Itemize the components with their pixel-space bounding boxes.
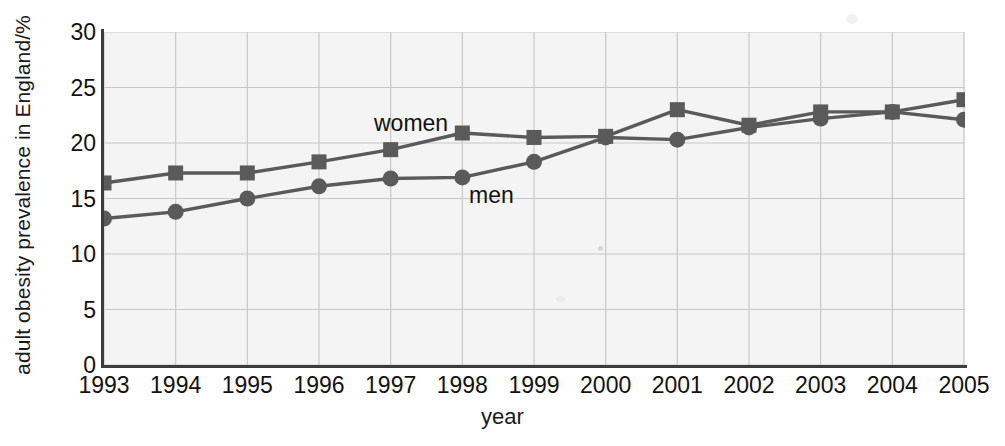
data-point-men bbox=[383, 171, 399, 187]
series-label-women: women bbox=[374, 110, 448, 137]
y-tick-label: 30 bbox=[54, 19, 96, 46]
y-tick-label: 25 bbox=[54, 74, 96, 101]
data-point-men bbox=[526, 154, 542, 170]
x-tick-label: 1996 bbox=[293, 372, 344, 399]
data-point-men bbox=[813, 111, 829, 127]
y-axis-title: adult obesity prevalence in England/% bbox=[11, 15, 35, 375]
data-point-women bbox=[670, 102, 685, 117]
data-point-men bbox=[669, 132, 685, 148]
x-tick-label: 2002 bbox=[723, 372, 774, 399]
data-point-women bbox=[383, 142, 398, 157]
x-tick-label: 2001 bbox=[652, 372, 703, 399]
plot-area bbox=[104, 32, 965, 365]
data-point-men bbox=[239, 191, 255, 207]
data-point-women bbox=[957, 92, 966, 107]
series-label-men: men bbox=[469, 182, 514, 209]
data-point-men bbox=[956, 112, 965, 128]
data-point-men bbox=[884, 104, 900, 120]
y-tick-label: 20 bbox=[54, 130, 96, 157]
x-tick-label: 1998 bbox=[437, 372, 488, 399]
x-tick-label: 1994 bbox=[150, 372, 201, 399]
x-tick-label: 2004 bbox=[867, 372, 918, 399]
data-point-women bbox=[240, 165, 255, 180]
data-point-women bbox=[312, 154, 327, 169]
y-tick-label: 10 bbox=[54, 241, 96, 268]
x-tick-label: 2005 bbox=[938, 372, 989, 399]
y-tick-label: 15 bbox=[54, 185, 96, 212]
data-point-women bbox=[168, 165, 183, 180]
x-tick-label: 2000 bbox=[580, 372, 631, 399]
data-point-women bbox=[104, 175, 112, 190]
data-point-women bbox=[527, 130, 542, 145]
data-point-men bbox=[311, 178, 327, 194]
data-point-men bbox=[741, 119, 757, 135]
data-point-men bbox=[454, 169, 470, 185]
scan-artifact bbox=[846, 14, 858, 24]
data-point-men bbox=[168, 204, 184, 220]
chart-canvas bbox=[104, 32, 965, 365]
x-tick-label: 1995 bbox=[222, 372, 273, 399]
x-axis-title: year bbox=[0, 404, 1005, 430]
x-axis-line bbox=[101, 365, 967, 368]
x-tick-label: 1993 bbox=[78, 372, 129, 399]
data-point-men bbox=[104, 210, 112, 226]
obesity-prevalence-line-chart: adult obesity prevalence in England/% 05… bbox=[0, 0, 1005, 446]
y-tick-label: 5 bbox=[54, 296, 96, 323]
data-point-women bbox=[455, 126, 470, 141]
x-tick-label: 1999 bbox=[508, 372, 559, 399]
data-point-men bbox=[598, 129, 614, 145]
y-axis-title-container: adult obesity prevalence in England/% bbox=[0, 0, 46, 390]
x-tick-label: 2003 bbox=[795, 372, 846, 399]
x-tick-label: 1997 bbox=[365, 372, 416, 399]
